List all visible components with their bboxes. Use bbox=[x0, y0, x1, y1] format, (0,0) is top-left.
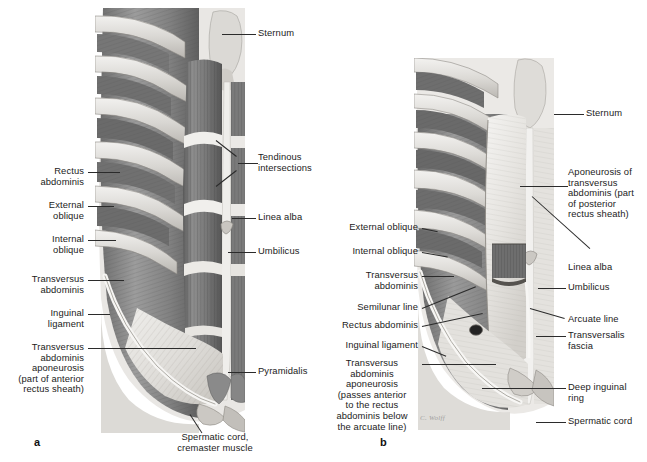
label-linea-alba: Linea alba bbox=[568, 262, 647, 273]
label-umbilicus: Umbilicus bbox=[258, 246, 324, 257]
label-spermatic-cord: Spermatic cord bbox=[568, 416, 647, 427]
panel-a-letter: a bbox=[34, 436, 40, 448]
label-arcuate-line: Arcuate line bbox=[568, 314, 647, 325]
label-sternum: Sternum bbox=[586, 108, 647, 119]
label-transversus-aponeurosis: Transversus abdominis aponeurosis (part … bbox=[0, 342, 84, 395]
label-sternum: Sternum bbox=[258, 28, 324, 39]
panel-a: Rectus abdominis External oblique Intern… bbox=[0, 0, 324, 462]
leader-linea-alba bbox=[232, 218, 256, 219]
label-semilunar-line: Semilunar line bbox=[326, 302, 418, 313]
leader-tendinous-intersections bbox=[238, 163, 258, 164]
label-pyramidalis: Pyramidalis bbox=[258, 366, 324, 377]
label-rectus-abdominis: Rectus abdominis bbox=[10, 166, 84, 187]
leader-aponeurosis-posterior bbox=[520, 186, 568, 187]
leader-umbilicus bbox=[538, 288, 566, 289]
leader-transversus-aponeurosis bbox=[422, 364, 496, 365]
leader-sternum bbox=[222, 34, 256, 35]
panel-b-letter: b bbox=[380, 436, 387, 448]
panel-a-illustration bbox=[95, 8, 245, 433]
leader-external-oblique bbox=[88, 206, 114, 207]
leader-inguinal-ligament bbox=[88, 314, 110, 315]
label-transversalis-fascia: Transversalis fascia bbox=[568, 330, 647, 351]
leader-transversus-abdominis bbox=[88, 280, 124, 281]
anatomy-plate: Rectus abdominis External oblique Intern… bbox=[0, 0, 647, 462]
leader-spermatic-cord bbox=[536, 422, 566, 423]
label-transversus-abdominis: Transversus abdominis bbox=[326, 270, 418, 291]
label-inguinal-ligament: Inguinal ligament bbox=[10, 308, 84, 329]
leader-rectus-abdominis bbox=[88, 172, 120, 173]
leader-umbilicus bbox=[228, 252, 256, 253]
label-deep-inguinal-ring: Deep inguinal ring bbox=[568, 382, 647, 403]
leader-transversus-aponeurosis bbox=[88, 348, 196, 349]
label-transversus-abdominis: Transversus abdominis bbox=[6, 274, 84, 295]
leader-deep-inguinal-ring bbox=[482, 388, 566, 389]
label-rectus-abdominis: Rectus abdominis bbox=[326, 320, 418, 331]
label-spermatic-cord-cremaster: Spermatic cord, cremaster muscle bbox=[150, 432, 280, 453]
label-inguinal-ligament: Inguinal ligament bbox=[326, 340, 418, 351]
label-external-oblique: External oblique bbox=[326, 222, 418, 233]
panel-b-illustration bbox=[414, 58, 554, 430]
label-aponeurosis-posterior: Aponeurosis of transversus abdominis (pa… bbox=[568, 167, 647, 220]
leader-internal-oblique bbox=[88, 240, 116, 241]
artist-signature: C. Wolff bbox=[420, 414, 445, 422]
label-transversus-aponeurosis: Transversus abdominis aponeurosis (passe… bbox=[324, 358, 420, 432]
label-external-oblique: External oblique bbox=[10, 200, 84, 221]
leader-sternum bbox=[554, 114, 584, 115]
label-umbilicus: Umbilicus bbox=[568, 282, 647, 293]
leader-pyramidalis bbox=[228, 372, 256, 373]
leader-transversus-abdominis bbox=[422, 276, 454, 277]
label-linea-alba: Linea alba bbox=[258, 212, 324, 223]
label-tendinous-intersections: Tendinous intersections bbox=[258, 152, 324, 173]
leader-transversalis-fascia bbox=[536, 336, 566, 337]
panel-b: External oblique Internal oblique Transv… bbox=[324, 0, 647, 462]
label-internal-oblique: Internal oblique bbox=[326, 246, 418, 257]
label-internal-oblique: Internal oblique bbox=[10, 234, 84, 255]
